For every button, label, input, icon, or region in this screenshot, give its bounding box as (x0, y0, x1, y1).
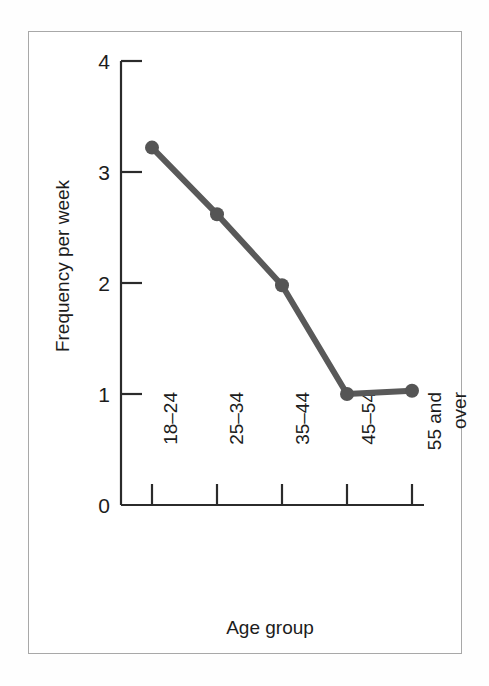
x-tick-label-45-54: 45–54 (358, 392, 380, 512)
figure-border (28, 31, 462, 654)
x-axis-title: Age group (120, 617, 420, 639)
x-tick-label-55-and: 55 and (424, 392, 446, 512)
y-tick-label-4: 4 (86, 51, 110, 72)
x-tick-label-18-24: 18–24 (160, 392, 182, 512)
y-tick-label-2: 2 (86, 273, 110, 294)
x-tick-label-35-44: 35–44 (292, 392, 314, 512)
y-axis-title: Frequency per week (52, 141, 74, 391)
y-tick-label-1: 1 (86, 384, 110, 405)
y-tick-label-0: 0 (86, 495, 110, 516)
chart-figure: Frequency per week 4 3 2 1 0 18–24 25–34… (0, 0, 489, 686)
x-tick-label-55-over: over (449, 392, 471, 512)
y-tick-label-3: 3 (86, 162, 110, 183)
x-tick-label-25-34: 25–34 (226, 392, 248, 512)
